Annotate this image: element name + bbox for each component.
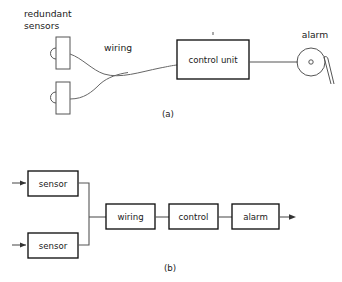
- redundant-sensors-label-line1: redundant: [24, 8, 72, 19]
- block-sensor-top-label: sensor: [39, 179, 68, 189]
- block-wiring-label: wiring: [117, 212, 143, 222]
- sensor-bottom-symbol: [51, 82, 71, 114]
- redundant-sensors-label-line2: sensors: [24, 20, 59, 31]
- output-arrow: [279, 214, 296, 220]
- caption-b: (b): [164, 263, 176, 273]
- block-alarm-label: alarm: [243, 212, 268, 222]
- block-control-label: control: [179, 212, 209, 222]
- control-unit-label: control unit: [188, 55, 238, 65]
- wiring-curve-top: [70, 54, 177, 76]
- block-sensor-bottom-label: sensor: [39, 241, 68, 251]
- caption-a: (a): [162, 109, 174, 119]
- wiring-label: wiring: [104, 42, 132, 53]
- parallel-bus: [78, 183, 89, 245]
- diagram-a-group: redundant sensors wiring control unit: [24, 8, 334, 119]
- alarm-bell-symbol: [297, 48, 334, 84]
- sensor-top-symbol: [51, 37, 71, 69]
- wiring-curve-bottom: [70, 73, 128, 100]
- input-arrow-bottom: [12, 242, 26, 247]
- alarm-label: alarm: [302, 29, 328, 40]
- diagram-canvas: redundant sensors wiring control unit: [0, 0, 342, 282]
- figure-root: redundant sensors wiring control unit: [0, 0, 342, 282]
- diagram-b-group: sensor sensor wiring control: [12, 171, 296, 273]
- input-arrow-top: [12, 180, 26, 185]
